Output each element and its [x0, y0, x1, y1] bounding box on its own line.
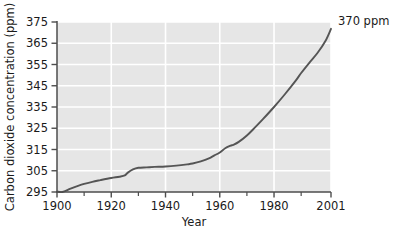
end-value-callout: 370 ppm: [338, 14, 389, 28]
y-tick-label-325: 325: [26, 121, 48, 135]
y-tick-label-295: 295: [26, 185, 48, 199]
chart-annotations: 370 ppm: [338, 14, 389, 28]
co2-concentration-chart: 295305315325335345355365375 190019201940…: [0, 0, 395, 240]
chart-svg: 295305315325335345355365375 190019201940…: [0, 0, 395, 240]
x-tick-label-1940: 1940: [151, 199, 180, 213]
x-axis-tick-labels: 190019201940196019802001: [42, 199, 345, 213]
y-tick-label-375: 375: [26, 15, 48, 29]
x-axis-ticks: [57, 192, 331, 198]
x-tick-label-2001: 2001: [316, 199, 345, 213]
y-tick-label-305: 305: [26, 164, 48, 178]
y-tick-label-345: 345: [26, 79, 48, 93]
x-axis-title: Year: [181, 215, 207, 229]
y-tick-label-315: 315: [26, 143, 48, 157]
y-axis-title: Carbon dioxide concentration (ppm): [3, 3, 17, 211]
x-tick-label-1920: 1920: [97, 199, 126, 213]
y-axis-ticks: [52, 22, 58, 192]
x-tick-label-1980: 1980: [259, 199, 288, 213]
x-tick-label-1960: 1960: [205, 199, 234, 213]
x-tick-label-1900: 1900: [42, 199, 71, 213]
y-tick-label-355: 355: [26, 58, 48, 72]
y-axis-tick-labels: 295305315325335345355365375: [26, 15, 48, 199]
y-tick-label-365: 365: [26, 36, 48, 50]
y-tick-label-335: 335: [26, 100, 48, 114]
